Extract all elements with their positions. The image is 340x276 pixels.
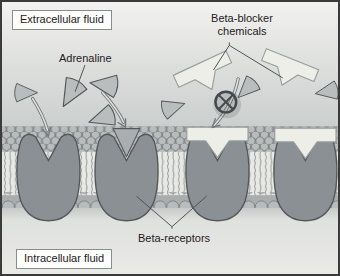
beta-blocker-label-line2: chemicals	[195, 25, 289, 38]
extracellular-fluid-label: Extracellular fluid	[12, 10, 112, 30]
no-entry-icon	[213, 91, 241, 119]
intracellular-fluid-label: Intracellular fluid	[16, 249, 112, 269]
beta-receptors-label: Beta-receptors	[122, 232, 226, 245]
beta-blocker-label: Beta-blocker chemicals	[195, 12, 289, 38]
adrenaline-label: Adrenaline	[59, 52, 112, 65]
beta-blocker-label-line1: Beta-blocker	[195, 12, 289, 25]
membrane-diagram: Extracellular fluid Adrenaline Beta-bloc…	[0, 0, 340, 276]
